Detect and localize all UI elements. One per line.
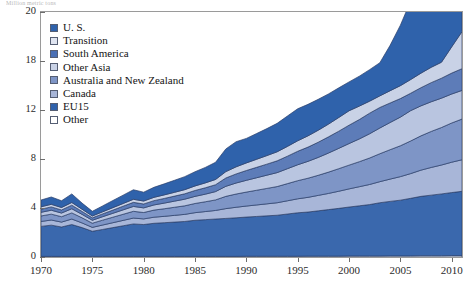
- legend-item[interactable]: Other: [50, 113, 184, 126]
- figure-caption: Million metric tons: [6, 0, 206, 7]
- legend-label: Canada: [63, 88, 96, 99]
- x-tick-label: 2010: [430, 264, 470, 277]
- chart-figure: Million metric tons 04812182019701975198…: [0, 0, 470, 289]
- y-tick-label: 0: [10, 251, 36, 261]
- legend-label: Other: [63, 114, 88, 125]
- x-tick-label: 1970: [19, 264, 63, 277]
- legend-swatch-icon: [50, 76, 58, 84]
- x-tick-label: 1995: [276, 264, 320, 277]
- legend-swatch-icon: [50, 116, 58, 124]
- x-tick-mark: [246, 258, 247, 262]
- x-tick-label: 1975: [70, 264, 114, 277]
- legend-item[interactable]: EU15: [50, 100, 184, 113]
- legend-label: Other Asia: [63, 62, 110, 73]
- x-tick-label: 2005: [378, 264, 422, 277]
- x-tick-label: 2000: [327, 264, 371, 277]
- legend-swatch-icon: [50, 24, 58, 32]
- x-tick-mark: [349, 258, 350, 262]
- legend-label: Transition: [63, 35, 108, 46]
- legend-item[interactable]: Transition: [50, 34, 184, 47]
- y-tick-label: 18: [10, 55, 36, 65]
- x-tick-mark: [195, 258, 196, 262]
- x-tick-mark: [92, 258, 93, 262]
- y-tick-label: 20: [10, 6, 36, 16]
- x-tick-mark: [298, 258, 299, 262]
- y-tick-label: 12: [10, 104, 36, 114]
- legend-label: South America: [63, 48, 129, 59]
- x-tick-label: 1985: [173, 264, 217, 277]
- legend-label: EU15: [63, 101, 89, 112]
- chart-legend: U. S.TransitionSouth AmericaOther AsiaAu…: [50, 21, 184, 127]
- legend-swatch-icon: [50, 90, 58, 98]
- legend-label: U. S.: [63, 22, 85, 33]
- x-tick-mark: [452, 258, 453, 262]
- y-tick-label: 4: [10, 202, 36, 212]
- legend-item[interactable]: Australia and New Zealand: [50, 74, 184, 87]
- y-tick-label: 8: [10, 153, 36, 163]
- x-tick-label: 1980: [122, 264, 166, 277]
- x-tick-mark: [144, 258, 145, 262]
- legend-item[interactable]: U. S.: [50, 21, 184, 34]
- x-tick-mark: [400, 258, 401, 262]
- legend-swatch-icon: [50, 37, 58, 45]
- legend-item[interactable]: Canada: [50, 87, 184, 100]
- x-tick-mark: [41, 258, 42, 262]
- legend-swatch-icon: [50, 103, 58, 111]
- legend-item[interactable]: South America: [50, 47, 184, 60]
- x-tick-label: 1990: [224, 264, 268, 277]
- legend-item[interactable]: Other Asia: [50, 61, 184, 74]
- legend-swatch-icon: [50, 63, 58, 71]
- legend-swatch-icon: [50, 50, 58, 58]
- legend-label: Australia and New Zealand: [63, 75, 184, 86]
